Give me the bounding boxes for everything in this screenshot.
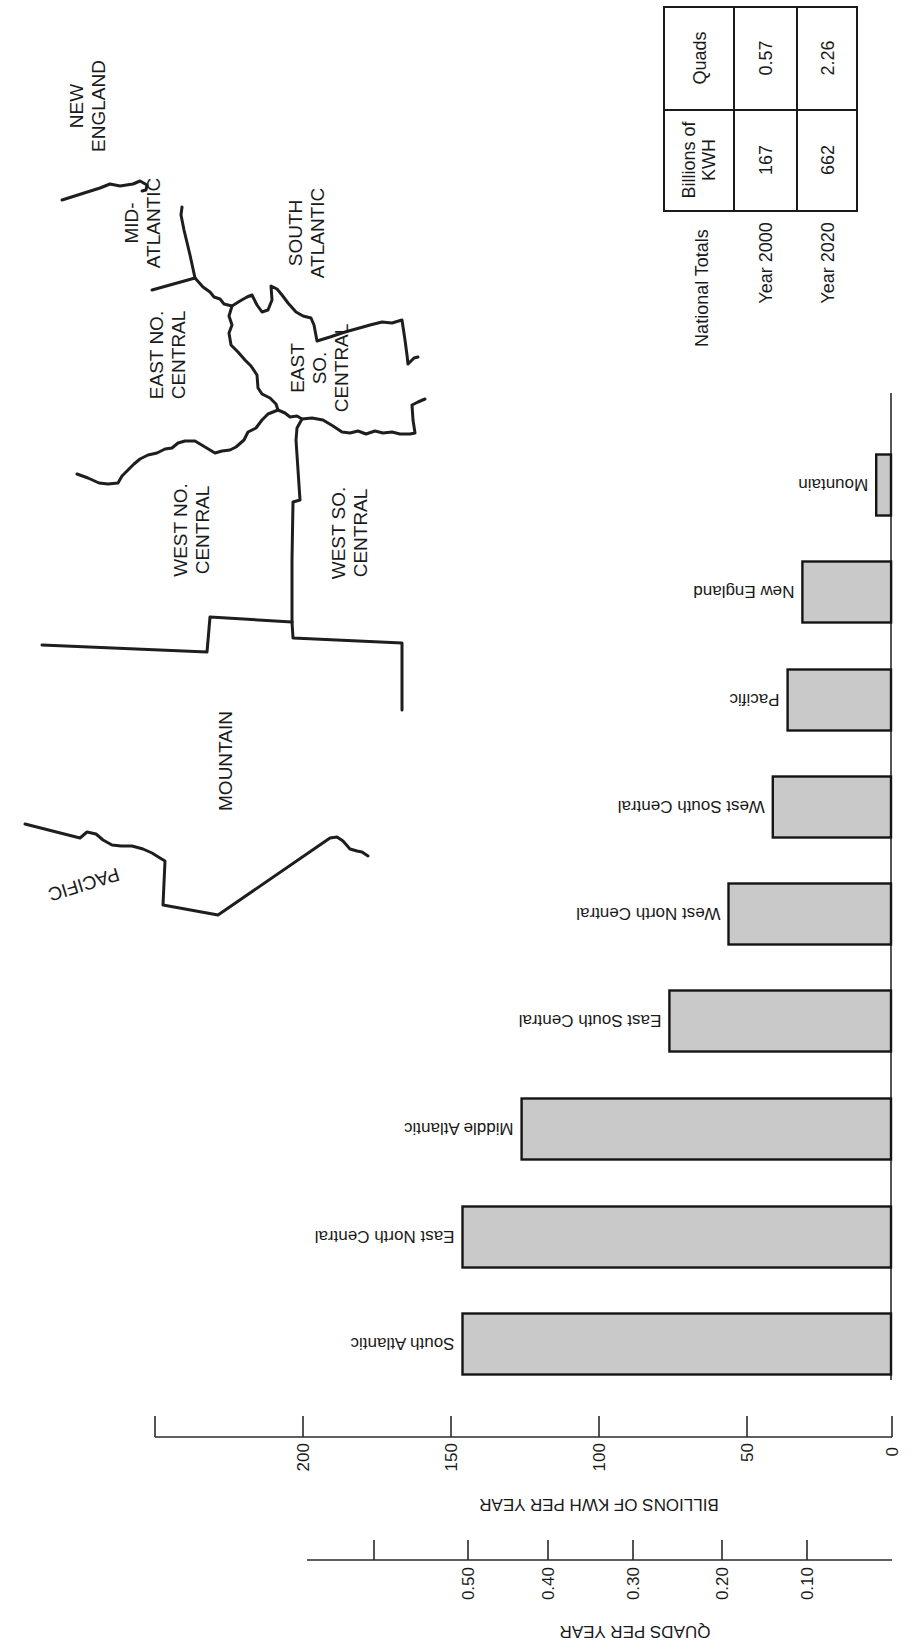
label-east-so-central-line1: EAST <box>287 343 308 393</box>
quads-axis-title-text: QUADS PER YEAR <box>560 1622 711 1641</box>
table-label-year-2020: Year 2020 <box>818 222 838 303</box>
bar-label: New England <box>693 582 794 601</box>
bar-chart: South AtlanticEast North CentralMiddle A… <box>155 393 902 1641</box>
label-west-no-central-line2: CENTRAL <box>192 486 213 575</box>
label-new-england-line1: NEW <box>66 84 87 128</box>
bar-label: West North Central <box>576 904 720 923</box>
border-mountain-east-north <box>42 617 292 652</box>
bar-label: Middle Atlantic <box>403 1119 513 1138</box>
quads-tick-label: 0.50 <box>459 1567 478 1600</box>
label-mid-atlantic-line2: ATLANTIC <box>143 178 164 268</box>
label-east-no-central-line2: CENTRAL <box>168 311 189 400</box>
table-header-quads: Quads <box>690 31 710 84</box>
label-south-atlantic-line2: ATLANTIC <box>307 188 328 278</box>
bar-label-text: West North Central <box>576 904 720 923</box>
kwh-axis-title-text: BILLIONS OF KWH PER YEAR <box>479 1495 719 1514</box>
kwh-tick-200: 200 <box>294 1443 313 1471</box>
table-cell-text: 167 <box>756 145 776 175</box>
bar-pacific <box>788 670 891 731</box>
bar-label: Mountain <box>798 475 868 494</box>
bar-west-south-central <box>773 777 891 838</box>
table-label-year-2000: Year 2000 <box>756 222 776 303</box>
bar-label-text: East North Central <box>315 1227 455 1246</box>
border-pacific <box>25 824 368 915</box>
label-west-no-central: WEST NO. CENTRAL <box>170 483 213 577</box>
border-west-no-central-north <box>77 410 278 484</box>
quads-tick-label: 0.40 <box>539 1567 558 1600</box>
kwh-tick-label: 100 <box>590 1443 609 1471</box>
label-east-no-central: EAST NO. CENTRAL <box>146 311 189 400</box>
label-east-so-central: EAST SO. CENTRAL <box>287 324 352 413</box>
bar-label-text: West South Central <box>618 797 765 816</box>
table-cell-text: 662 <box>818 145 838 175</box>
label-south-atlantic: SOUTH ATLANTIC <box>285 188 328 278</box>
bar-label-text: New England <box>693 582 794 601</box>
label-east-so-central-line3: CENTRAL <box>331 324 352 413</box>
table-label-national-totals: National Totals <box>692 229 712 347</box>
table-cell-text: 2.26 <box>818 40 838 75</box>
regional-map: NEW ENGLAND MID- ATLANTIC SOUTH ATLANTIC… <box>25 60 425 915</box>
label-west-so-central-line1: WEST SO. <box>328 487 349 580</box>
bar-west-north-central <box>729 884 892 945</box>
bar-east-north-central <box>463 1207 892 1268</box>
border-mountain-east-south <box>292 622 402 710</box>
quads-tick-0-40: 0.40 <box>539 1567 558 1600</box>
border-east-central-divide <box>229 306 278 410</box>
kwh-axis-title: BILLIONS OF KWH PER YEAR <box>479 1495 719 1514</box>
bar-label: East North Central <box>315 1227 455 1246</box>
table-header-kwh-line1: Billions of <box>679 120 699 198</box>
year-2000-text: Year 2000 <box>756 222 776 303</box>
quads-axis-title: QUADS PER YEAR <box>560 1622 711 1641</box>
year-2020-text: Year 2020 <box>818 222 838 303</box>
quads-tick-label: 0.30 <box>624 1567 643 1600</box>
kwh-axis: 0 50 100 150 200 BILLIONS OF KWH PER YEA… <box>155 1416 902 1514</box>
label-new-england-line2: ENGLAND <box>88 60 109 152</box>
kwh-tick-label: 50 <box>738 1443 757 1462</box>
national-totals-table: Quads Billions of KWH 0.57 2.26 167 662 … <box>664 7 857 347</box>
table-cell-text: 0.57 <box>756 40 776 75</box>
label-south-atlantic-line1: SOUTH <box>285 200 306 267</box>
quads-tick-label: 0.10 <box>798 1567 817 1600</box>
bar-label: South Atlantic <box>350 1334 454 1353</box>
quads-tick-0-30: 0.30 <box>624 1567 643 1600</box>
border-mid-atlantic-west <box>152 278 195 290</box>
table-header-kwh-line2: KWH <box>699 139 719 181</box>
kwh-tick-label: 150 <box>442 1443 461 1471</box>
bar-label-text: East South Central <box>519 1011 662 1030</box>
label-west-so-central-line2: CENTRAL <box>350 489 371 578</box>
label-new-england: NEW ENGLAND <box>66 60 109 152</box>
bar-mountain <box>876 455 891 516</box>
label-west-no-central-line1: WEST NO. <box>170 483 191 577</box>
kwh-tick-150: 150 <box>442 1443 461 1471</box>
border-new-england <box>62 181 147 200</box>
quads-tick-label: 0.20 <box>713 1567 732 1600</box>
label-mountain: MOUNTAIN <box>215 711 236 811</box>
kwh-tick-50: 50 <box>738 1443 757 1462</box>
quads-tick-0-10: 0.10 <box>798 1567 817 1600</box>
label-mid-atlantic: MID- ATLANTIC <box>121 178 164 268</box>
label-east-no-central-line1: EAST NO. <box>146 311 167 399</box>
table-header-quads-text: Quads <box>690 31 710 84</box>
kwh-tick-100: 100 <box>590 1443 609 1471</box>
label-pacific: PACIFIC <box>46 864 122 906</box>
label-east-so-central-line2: SO. <box>309 352 330 385</box>
bar-new-england <box>802 562 891 623</box>
quads-tick-0-50: 0.50 <box>459 1567 478 1600</box>
bar-label: West South Central <box>618 797 765 816</box>
bar-label-text: Middle Atlantic <box>403 1119 513 1138</box>
kwh-tick-label: 0 <box>883 1447 902 1456</box>
kwh-tick-0: 0 <box>883 1447 902 1456</box>
quads-axis: 0.10 0.20 0.30 0.40 0.50 QUADS PER YEAR <box>307 1540 892 1641</box>
bar-label: East South Central <box>519 1011 662 1030</box>
border-west-central-divide <box>292 419 302 622</box>
table-cell-2020-kwh: 662 <box>818 145 838 175</box>
table-cell-2000-quads: 0.57 <box>756 40 776 75</box>
quads-tick-0-20: 0.20 <box>713 1567 732 1600</box>
label-mountain-text: MOUNTAIN <box>215 711 236 811</box>
table-cell-2000-kwh: 167 <box>756 145 776 175</box>
kwh-tick-label: 200 <box>294 1443 313 1471</box>
bars-group: South AtlanticEast North CentralMiddle A… <box>315 455 891 1375</box>
label-west-so-central: WEST SO. CENTRAL <box>328 487 371 580</box>
bar-label-text: Pacific <box>729 690 780 709</box>
bar-label-text: South Atlantic <box>350 1334 454 1353</box>
